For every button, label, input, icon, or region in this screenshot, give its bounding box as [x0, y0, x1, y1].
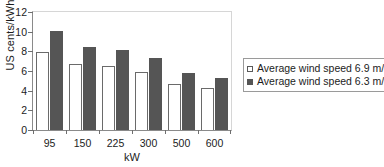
bar — [36, 52, 49, 130]
bar — [149, 58, 162, 130]
y-axis-tick-label: 12 — [5, 7, 27, 18]
legend-item-label: Average wind speed 6.9 m/s — [257, 63, 384, 74]
y-axis-tick-label: 4 — [5, 86, 27, 97]
bar — [182, 73, 195, 130]
y-axis-tick-label: 10 — [5, 27, 27, 38]
bar — [50, 31, 63, 130]
y-axis-tick — [28, 32, 33, 33]
legend-item: Average wind speed 6.9 m/s — [247, 62, 384, 75]
bar — [215, 78, 228, 130]
x-axis-tick — [33, 130, 34, 134]
bar — [135, 72, 148, 130]
legend-item-label: Average wind speed 6.3 m/s — [257, 76, 384, 87]
bar — [83, 47, 96, 130]
x-axis-tick — [165, 130, 166, 134]
y-axis-tick-label: 6 — [5, 66, 27, 77]
y-axis-tick — [28, 110, 33, 111]
x-axis-tick-label: 600 — [195, 138, 235, 149]
bar — [102, 66, 115, 130]
x-axis-tick — [198, 130, 199, 134]
x-axis-tick — [99, 130, 100, 134]
y-axis-tick — [28, 91, 33, 92]
x-axis-title: kW — [32, 151, 232, 163]
x-axis-tick — [230, 130, 231, 134]
chart-legend: Average wind speed 6.9 m/s Average wind … — [243, 58, 384, 92]
y-axis-tick-label: 8 — [5, 46, 27, 57]
x-axis-tick — [66, 130, 67, 134]
bar — [168, 84, 181, 130]
plot-area: 02468101295150225300500600 — [32, 11, 232, 131]
y-axis-tick — [28, 12, 33, 13]
x-axis-tick — [132, 130, 133, 134]
legend-swatch-open-square-icon — [247, 66, 253, 72]
y-axis-tick-label: 0 — [5, 125, 27, 136]
legend-swatch-filled-square-icon — [247, 79, 253, 85]
y-axis-tick — [28, 51, 33, 52]
y-axis-tick-label: 2 — [5, 105, 27, 116]
bar — [69, 64, 82, 130]
bar — [116, 50, 129, 130]
y-axis-tick — [28, 71, 33, 72]
bar — [201, 88, 214, 130]
legend-item: Average wind speed 6.3 m/s — [247, 75, 384, 88]
chart-figure: US cents/kWh 02468101295150225300500600 … — [0, 0, 384, 167]
